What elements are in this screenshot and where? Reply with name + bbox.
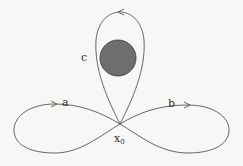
label-b: b <box>168 98 175 109</box>
base-point-label: x0 <box>114 133 125 146</box>
label-a: a <box>62 97 69 108</box>
obstacle-disk <box>100 40 136 76</box>
label-c: c <box>81 52 87 63</box>
loop-diagram: c a b x0 <box>0 0 243 166</box>
loop-a <box>14 104 120 153</box>
base-point-subscript: 0 <box>120 138 124 146</box>
loop-b <box>120 105 229 153</box>
